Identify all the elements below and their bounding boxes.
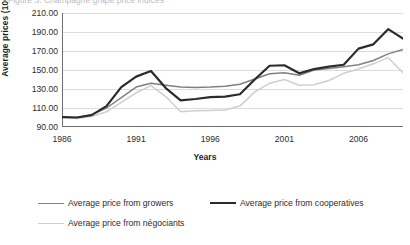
chart-figure: Figure 3. Champagne grape price indices … [0, 0, 410, 245]
y-tick-label: 170.00 [12, 46, 58, 56]
legend-label: Average price from growers [68, 196, 173, 210]
series-line [62, 58, 403, 119]
data-series-layer [62, 29, 403, 118]
y-tick-label: 210.00 [12, 8, 58, 18]
legend-line-swatch-icon [38, 223, 64, 224]
y-axis-tick-labels: 90.00110.00130.00150.00170.00190.00210.0… [8, 0, 58, 140]
series-line [62, 29, 403, 117]
x-axis-title: Years [0, 152, 410, 162]
legend-label: Average price from cooperatives [240, 196, 364, 210]
x-tick-label: 1986 [42, 134, 82, 144]
x-tick-label: 2001 [264, 134, 304, 144]
y-tick-label: 150.00 [12, 65, 58, 75]
x-tick-label: 1996 [190, 134, 230, 144]
x-tick-label: 2006 [339, 134, 379, 144]
legend-line-swatch-icon [38, 203, 64, 204]
x-axis-tick-labels: 19861991199620012006 [0, 134, 410, 148]
x-tick-label: 1991 [116, 134, 156, 144]
legend-item[interactable]: Average price from growers [38, 196, 173, 210]
plot-area [62, 13, 403, 127]
legend-item[interactable]: Average price from cooperatives [210, 196, 364, 210]
y-tick-label: 130.00 [12, 84, 58, 94]
y-tick-label: 90.00 [12, 122, 58, 132]
y-tick-label: 110.00 [12, 103, 58, 113]
legend-item[interactable]: Average price from négociants [38, 216, 184, 230]
chart-legend: Average price from growersAverage price … [0, 196, 410, 244]
line-chart-svg [62, 13, 403, 127]
y-tick-label: 190.00 [12, 27, 58, 37]
legend-line-swatch-icon [210, 202, 236, 204]
legend-label: Average price from négociants [68, 216, 184, 230]
